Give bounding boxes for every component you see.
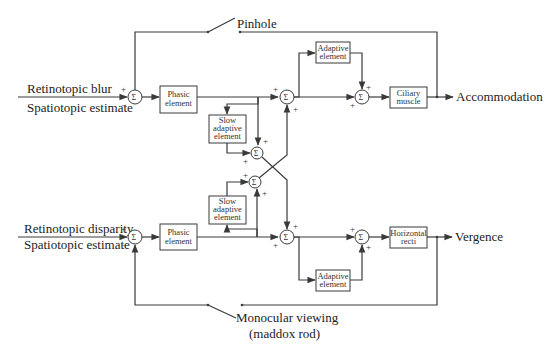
monocular-viewing-label: Monocular viewing <box>236 310 339 325</box>
vergence-output-label: Vergence <box>455 229 503 244</box>
svg-text:recti: recti <box>401 236 417 246</box>
svg-text:+: + <box>263 136 268 146</box>
svg-text:+: + <box>350 224 355 234</box>
plus-sign: + <box>121 84 126 94</box>
svg-text:−: − <box>121 240 126 250</box>
svg-text:Σ: Σ <box>132 233 137 242</box>
svg-text:+: + <box>366 242 371 252</box>
svg-text:Σ: Σ <box>284 233 289 242</box>
svg-text:+: + <box>293 221 298 231</box>
svg-text:+: + <box>243 170 248 180</box>
svg-text:element: element <box>214 212 242 222</box>
svg-text:element: element <box>214 131 242 141</box>
retinotopic-blur-label: Retinotopic blur <box>27 81 113 96</box>
maddox-rod-label: (maddox rod) <box>249 326 320 341</box>
pinhole-switch <box>208 18 235 32</box>
svg-text:+: + <box>293 104 298 114</box>
accommodation-loop: Retinotopic blur Spatiotopic estimate + … <box>18 16 543 166</box>
svg-text:+: + <box>273 240 278 250</box>
svg-text:+: + <box>121 224 126 234</box>
svg-text:element: element <box>320 51 348 61</box>
sigma-symbol: Σ <box>132 93 137 102</box>
accommodation-vergence-diagram: Retinotopic blur Spatiotopic estimate + … <box>0 0 545 348</box>
vergence-loop: Retinotopic disparity Spatiotopic estima… <box>18 170 503 341</box>
retinotopic-disparity-label: Retinotopic disparity <box>24 221 134 236</box>
cross-links <box>259 105 287 229</box>
svg-text:+: + <box>273 84 278 94</box>
svg-text:element: element <box>165 236 193 246</box>
svg-text:element: element <box>320 279 348 289</box>
svg-text:Σ: Σ <box>252 178 257 187</box>
svg-text:Σ: Σ <box>359 233 364 242</box>
svg-text:Σ: Σ <box>359 93 364 102</box>
svg-text:Σ: Σ <box>284 93 289 102</box>
accommodation-output-label: Accommodation <box>456 89 543 104</box>
svg-text:muscle: muscle <box>396 96 420 106</box>
monocular-viewing-switch <box>208 305 236 318</box>
minus-sign: − <box>121 100 126 110</box>
pinhole-label: Pinhole <box>237 16 277 31</box>
spatiotopic-estimate-label-bottom: Spatiotopic estimate <box>24 237 130 252</box>
svg-text:+: + <box>366 82 371 92</box>
svg-text:element: element <box>165 98 193 108</box>
spatiotopic-estimate-label-top: Spatiotopic estimate <box>27 100 133 115</box>
svg-text:+: + <box>243 156 248 166</box>
svg-text:+: + <box>350 100 355 110</box>
svg-text:+: + <box>262 188 267 198</box>
svg-text:Σ: Σ <box>254 149 259 158</box>
